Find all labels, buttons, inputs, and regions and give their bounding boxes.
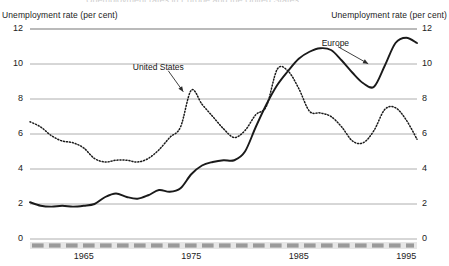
x-band-dash: [100, 243, 112, 247]
x-band-dash: [338, 243, 350, 247]
x-band-dash: [151, 243, 163, 247]
plot-area: [0, 0, 449, 266]
x-band-dash: [32, 243, 44, 247]
x-band-dash: [253, 243, 265, 247]
series-label-united-states: United States: [133, 62, 184, 72]
series-line-europe: [30, 38, 417, 207]
y-tick-right-4: 4: [422, 163, 440, 173]
y-tick-left-12: 12: [5, 23, 23, 33]
x-band-dash: [389, 243, 401, 247]
y-tick-left-10: 10: [5, 58, 23, 68]
x-tick-1995: 1995: [386, 251, 426, 261]
y-tick-right-2: 2: [422, 198, 440, 208]
y-tick-right-12: 12: [422, 23, 440, 33]
y-tick-right-6: 6: [422, 128, 440, 138]
y-tick-right-10: 10: [422, 58, 440, 68]
x-band-dash: [406, 243, 414, 247]
annotation-arrow-head: [178, 86, 183, 92]
x-band-dash: [321, 243, 333, 247]
y-tick-left-0: 0: [5, 233, 23, 243]
x-band-dash: [355, 243, 367, 247]
y-tick-right-8: 8: [422, 93, 440, 103]
y-tick-left-8: 8: [5, 93, 23, 103]
x-band-dash: [83, 243, 95, 247]
series-layer: [30, 38, 417, 207]
x-tick-1975: 1975: [171, 251, 211, 261]
x-band-dash: [219, 243, 231, 247]
chart-figure: Unemployment rates in Europe and the Uni…: [0, 0, 449, 266]
x-band-dash: [372, 243, 384, 247]
x-axis-band: [30, 242, 417, 249]
x-band-dash: [117, 243, 129, 247]
annotation-arrows: [168, 47, 368, 92]
x-band-dash: [304, 243, 316, 247]
x-band-dash: [49, 243, 61, 247]
y-tick-right-0: 0: [422, 233, 440, 243]
x-band-dash: [66, 243, 78, 247]
x-tick-1965: 1965: [64, 251, 104, 261]
gridlines: [30, 29, 417, 239]
y-tick-left-6: 6: [5, 128, 23, 138]
y-tick-left-4: 4: [5, 163, 23, 173]
x-band-dash: [270, 243, 282, 247]
x-band-dash: [287, 243, 299, 247]
x-band-dash: [202, 243, 214, 247]
x-band-dash: [168, 243, 180, 247]
x-band-dash: [134, 243, 146, 247]
x-tick-1985: 1985: [279, 251, 319, 261]
x-band-dash: [185, 243, 197, 247]
series-label-europe: Europe: [322, 38, 349, 48]
x-band-dash: [236, 243, 248, 247]
y-tick-left-2: 2: [5, 198, 23, 208]
